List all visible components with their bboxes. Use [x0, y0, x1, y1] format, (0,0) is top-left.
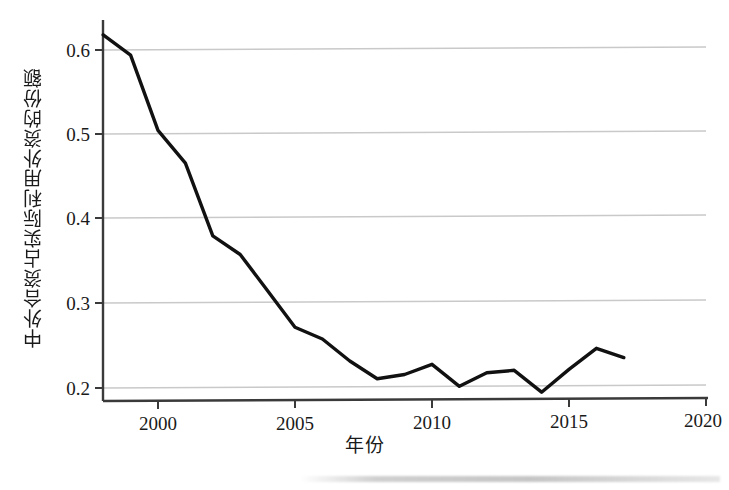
gridline-0.3 [103, 300, 706, 303]
x-axis-line [103, 398, 708, 401]
page-scan-artifact [300, 476, 720, 482]
gridline-0.4 [103, 215, 706, 218]
gridlines [103, 47, 706, 388]
ytick-label-3: 0.3 [66, 293, 90, 314]
y-axis-tick-labels: 0.6 0.5 0.4 0.3 0.2 [66, 40, 90, 399]
xtick-label-4: 2020 [684, 410, 722, 431]
ytick-label-0: 0.6 [66, 40, 90, 61]
line-chart-canvas: 0.6 0.5 0.4 0.3 0.2 2000 2005 2010 2015 … [0, 0, 729, 490]
x-axis-title: 年份 [0, 430, 729, 457]
data-series-line [103, 35, 624, 392]
xtick-label-3: 2015 [550, 411, 588, 432]
y-axis-title: 中外合资占实际利用外资的份额 [18, 18, 48, 398]
gridline-0.2 [103, 385, 706, 388]
ytick-label-1: 0.5 [66, 124, 90, 145]
ytick-label-2: 0.4 [66, 208, 90, 229]
gridline-0.5 [103, 131, 706, 134]
gridline-0.6 [103, 47, 706, 50]
ytick-label-4: 0.2 [66, 378, 90, 399]
chart-figure: 0.6 0.5 0.4 0.3 0.2 2000 2005 2010 2015 … [0, 0, 729, 490]
